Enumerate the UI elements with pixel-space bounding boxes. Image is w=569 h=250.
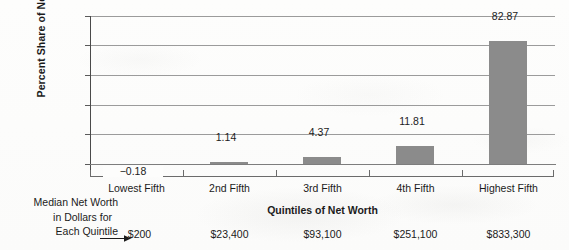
- plot-area: [90, 16, 555, 164]
- x-tick-1: [183, 170, 184, 177]
- gridline-80: [90, 45, 555, 46]
- median-value-4th-fifth: $251,100: [369, 228, 462, 240]
- median-note-line-2: in Dollars for: [12, 210, 118, 225]
- x-category-highest-fifth: Highest Fifth: [462, 182, 555, 194]
- x-tick-4: [462, 170, 463, 177]
- y-axis-line: [90, 16, 91, 176]
- value-label-3rd-fifth: 4.37: [289, 127, 349, 138]
- bar-highest-fifth: [489, 41, 527, 164]
- x-category-2nd-fifth: 2nd Fifth: [183, 182, 276, 194]
- bar-3rd-fifth: [303, 157, 341, 164]
- value-label-2nd-fifth: 1.14: [196, 132, 256, 143]
- median-value-highest-fifth: $833,300: [462, 228, 555, 240]
- gridline-40: [90, 105, 555, 106]
- gridline-60: [90, 75, 555, 76]
- x-tick-5: [553, 170, 554, 177]
- value-label-lowest-fifth: −0.18: [103, 166, 163, 177]
- x-tick-3: [369, 170, 370, 177]
- x-category-lowest-fifth: Lowest Fifth: [90, 182, 183, 194]
- value-label-4th-fifth: 11.81: [382, 116, 442, 127]
- zero-baseline: [90, 164, 556, 165]
- bar-4th-fifth: [396, 146, 434, 164]
- value-label-highest-fifth: 82.87: [475, 11, 535, 22]
- median-note-line-1: Median Net Worth: [12, 195, 118, 210]
- median-value-2nd-fifth: $23,400: [183, 228, 276, 240]
- x-category-4th-fifth: 4th Fifth: [369, 182, 462, 194]
- median-value-lowest-fifth: $200: [93, 228, 186, 240]
- x-category-3rd-fifth: 3rd Fifth: [276, 182, 369, 194]
- x-axis-title: Quintiles of Net Worth: [90, 204, 555, 216]
- bar-chart-figure: Percent Share of Net Worth 100 80 60 40 …: [0, 0, 569, 250]
- x-tick-2: [276, 170, 277, 177]
- median-value-3rd-fifth: $93,100: [276, 228, 369, 240]
- y-axis-title: Percent Share of Net Worth: [35, 0, 49, 102]
- x-tick-0: [90, 170, 91, 177]
